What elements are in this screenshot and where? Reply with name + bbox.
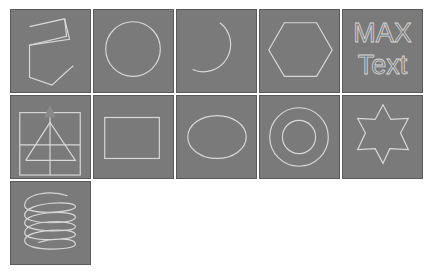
tile-donut[interactable]: Donut (259, 95, 340, 179)
tile-rectangle[interactable]: Rectangle (93, 95, 174, 179)
tile-star[interactable]: Star (342, 95, 423, 179)
line-shape-icon (11, 10, 90, 92)
arc-shape-icon (177, 10, 256, 92)
helix-shape-icon (11, 182, 90, 264)
text-shape-icon-line2: Text (343, 52, 422, 79)
tile-arc[interactable]: Arc (176, 9, 257, 93)
rectangle-shape-icon (94, 96, 173, 178)
tile-section[interactable]: Section (10, 95, 91, 179)
text-shape-icon-line1: MAX (343, 20, 422, 47)
tile-ellipse[interactable]: Ellipse (176, 95, 257, 179)
tile-line[interactable]: Line (10, 9, 91, 93)
tile-text[interactable]: Text MAX Text (342, 9, 423, 93)
hexagon-shape-icon (260, 10, 339, 92)
tile-helix[interactable]: Helix (10, 181, 91, 265)
tile-circle[interactable]: Circle (93, 9, 174, 93)
donut-shape-icon (260, 96, 339, 178)
tile-ngon[interactable]: NGon (259, 9, 340, 93)
circle-shape-icon (94, 10, 173, 92)
section-shape-icon (11, 96, 90, 178)
star-shape-icon (343, 96, 422, 178)
ellipse-shape-icon (177, 96, 256, 178)
shape-grid: Line Circle Arc NGon Text MAX Text Secti… (10, 9, 423, 265)
